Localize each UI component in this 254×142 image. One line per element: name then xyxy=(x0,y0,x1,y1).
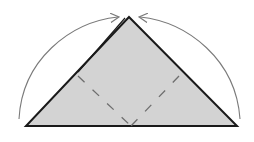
origami-diagram xyxy=(0,0,254,142)
fold-diagram-canvas xyxy=(0,0,254,142)
paper-triangle xyxy=(26,17,237,126)
